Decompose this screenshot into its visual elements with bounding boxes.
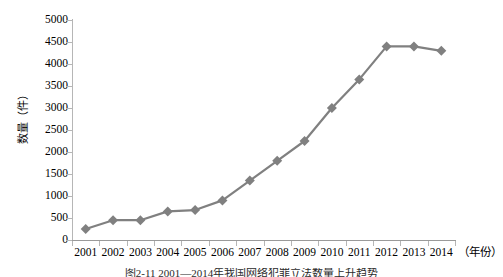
x-axis-tick-mark — [264, 241, 265, 246]
x-axis-tick-mark — [373, 241, 374, 246]
x-axis-tick-mark — [318, 241, 319, 246]
y-axis-tick-mark — [66, 20, 72, 21]
y-axis-tick-mark — [66, 64, 72, 65]
x-axis-tick-label: 2008 — [266, 246, 289, 259]
x-axis-tick-label: 2010 — [320, 246, 343, 259]
data-point-marker — [436, 46, 446, 56]
series-polyline — [86, 46, 442, 229]
x-axis-tick-mark — [72, 241, 73, 246]
x-axis-tick-mark — [209, 241, 210, 246]
y-axis-tick-mark — [66, 196, 72, 197]
x-axis-tick-mark — [455, 241, 456, 246]
x-axis-tick-label: 2007 — [238, 246, 261, 259]
y-axis-tick-mark — [66, 130, 72, 131]
x-axis-tick-label: 2009 — [293, 246, 316, 259]
x-axis-tick-label: 2013 — [402, 246, 425, 259]
y-axis-tick-mark — [66, 108, 72, 109]
line-chart: 数量（件） 0500100015002000250030003500400045… — [0, 0, 503, 277]
data-point-marker — [163, 206, 173, 216]
x-axis-tick-label: 2001 — [74, 246, 97, 259]
data-point-marker — [190, 205, 200, 215]
x-axis-tick-label: 2014 — [430, 246, 453, 259]
x-axis-tick-mark — [291, 241, 292, 246]
data-point-marker — [135, 215, 145, 225]
x-axis-tick-mark — [400, 241, 401, 246]
x-axis-tick-label: 2011 — [348, 246, 371, 259]
y-axis-tick-mark — [66, 152, 72, 153]
data-point-marker — [81, 224, 91, 234]
y-axis-tick-mark — [66, 42, 72, 43]
y-axis-tick-mark — [66, 218, 72, 219]
x-axis-tick-label: 2003 — [129, 246, 152, 259]
y-axis-tick-mark — [66, 174, 72, 175]
x-axis-tick-label: 2006 — [211, 246, 234, 259]
x-axis-unit-label: （年份） — [458, 246, 502, 259]
x-axis-tick-mark — [236, 241, 237, 246]
series-line-and-markers — [0, 0, 503, 277]
x-axis-tick-label: 2005 — [184, 246, 207, 259]
x-axis-tick-mark — [428, 241, 429, 246]
x-axis-tick-label: 2012 — [375, 246, 398, 259]
series-markers — [81, 41, 447, 234]
x-axis-tick-mark — [154, 241, 155, 246]
figure-caption-text: 图2-11 2001—2014年我国网络犯罪立法数量上升趋势 — [0, 268, 503, 277]
x-axis-tick-labels: 2001200220032004200520062007200820092010… — [0, 246, 503, 260]
figure-caption-clipped: 图2-11 2001—2014年我国网络犯罪立法数量上升趋势 — [0, 268, 503, 277]
x-axis-tick-mark — [346, 241, 347, 246]
x-axis-tick-mark — [127, 241, 128, 246]
data-point-marker — [409, 41, 419, 51]
y-axis-tick-mark — [66, 86, 72, 87]
data-point-marker — [108, 215, 118, 225]
x-axis-tick-label: 2002 — [102, 246, 125, 259]
x-axis-tick-mark — [99, 241, 100, 246]
x-axis-tick-label: 2004 — [156, 246, 179, 259]
x-axis-tick-mark — [181, 241, 182, 246]
